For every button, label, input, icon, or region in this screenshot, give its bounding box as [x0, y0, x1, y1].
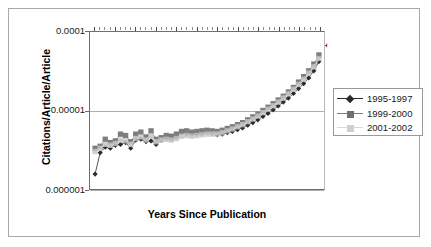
data-point [103, 137, 108, 142]
series-2001-2002 [92, 56, 321, 154]
x-tick-44 [99, 27, 100, 30]
series-line-2001-2002 [95, 58, 319, 151]
data-point [138, 134, 143, 139]
data-point [159, 137, 164, 142]
data-point [92, 149, 97, 154]
data-point [113, 141, 118, 146]
legend-label-2: 2001-2002 [364, 122, 412, 133]
y-tick-label-0: 0.0001 [41, 25, 85, 36]
data-point [270, 103, 275, 108]
data-point [220, 130, 225, 135]
data-point [184, 133, 189, 138]
x-axis-title: Years Since Publication [89, 208, 325, 220]
legend-entry-2001-2002[interactable]: 2001-2002 [334, 120, 422, 135]
data-point [184, 128, 189, 133]
legend-swatch-light-icon [336, 122, 364, 134]
x-tick-3 [310, 27, 311, 30]
data-point [164, 137, 169, 142]
data-point [93, 171, 98, 176]
legend-label-0: 1995-1997 [364, 93, 412, 104]
data-point [281, 95, 286, 100]
x-tick-35 [145, 27, 146, 30]
x-tick-40 [120, 27, 121, 30]
x-tick-26 [192, 27, 193, 30]
data-point [260, 110, 265, 115]
x-tick-4 [304, 27, 305, 30]
data-point [103, 142, 108, 147]
data-point [265, 107, 270, 112]
x-tick-8 [284, 27, 285, 30]
data-point [153, 139, 158, 144]
data-point [291, 87, 296, 92]
x-tick-23 [207, 27, 208, 30]
data-point [123, 133, 128, 138]
x-tick-15 [248, 27, 249, 30]
data-point [306, 70, 311, 75]
x-tick-32 [161, 27, 162, 30]
legend-entry-1999-2000[interactable]: 1999-2000 [334, 106, 422, 121]
chart-legend: 1995-1997 1999-2000 2001-2002 [333, 88, 423, 136]
legend-swatch-square-icon [336, 108, 364, 120]
data-point [179, 134, 184, 139]
series-1995-1997 [93, 59, 322, 177]
data-point [240, 122, 245, 127]
data-point [123, 138, 128, 143]
x-tick-31 [166, 27, 167, 30]
data-point [174, 136, 179, 141]
data-point [276, 99, 281, 104]
data-point [143, 137, 148, 142]
data-point [118, 131, 123, 136]
x-tick-10 [274, 27, 275, 30]
data-point [118, 137, 123, 142]
x-tick-22 [212, 27, 213, 30]
y-tick-mark-2 [85, 190, 89, 191]
x-tick-6 [294, 27, 295, 30]
data-point [316, 56, 321, 61]
legend-swatch-diamond-icon [336, 93, 364, 105]
legend-label-1: 1999-2000 [364, 108, 412, 119]
data-point [148, 128, 153, 133]
x-tick-36 [140, 27, 141, 30]
x-tick-38 [130, 27, 131, 30]
series-line-1995-1997 [95, 62, 319, 174]
data-point [209, 131, 214, 136]
x-tick-28 [181, 27, 182, 30]
x-tick-20 [222, 27, 223, 30]
data-point [250, 116, 255, 121]
x-tick-19 [228, 27, 229, 30]
data-point [179, 129, 184, 134]
data-point [311, 64, 316, 69]
data-point [199, 132, 204, 137]
data-point [225, 128, 230, 133]
data-point [194, 133, 199, 138]
x-tick-27 [186, 27, 187, 30]
data-point [138, 129, 143, 134]
gridline-1e-6 [90, 190, 324, 191]
x-tick-14 [253, 27, 254, 30]
data-point [245, 119, 250, 124]
data-point [108, 143, 113, 148]
data-point [214, 131, 219, 136]
data-point [169, 137, 174, 142]
x-tick-2 [315, 27, 316, 30]
x-tick-18 [233, 27, 234, 30]
data-point [255, 113, 260, 118]
data-point [189, 134, 194, 139]
x-tick-30 [171, 27, 172, 30]
data-point [133, 136, 138, 141]
y-tick-label-2: 0.000001 [31, 184, 85, 195]
plot-area [89, 31, 325, 190]
y-tick-label-1: 0.00001 [36, 104, 85, 115]
data-point [97, 146, 102, 151]
x-tick-43 [104, 27, 105, 30]
data-point [230, 126, 235, 131]
x-tick-7 [289, 27, 290, 30]
x-tick-16 [243, 27, 244, 30]
data-point [148, 134, 153, 139]
x-tick-42 [110, 27, 111, 30]
legend-entry-1995-1997[interactable]: 1995-1997 [334, 91, 422, 106]
x-tick-24 [202, 27, 203, 30]
x-tick-34 [151, 27, 152, 30]
data-point [128, 142, 133, 147]
x-tick-12 [263, 27, 264, 30]
